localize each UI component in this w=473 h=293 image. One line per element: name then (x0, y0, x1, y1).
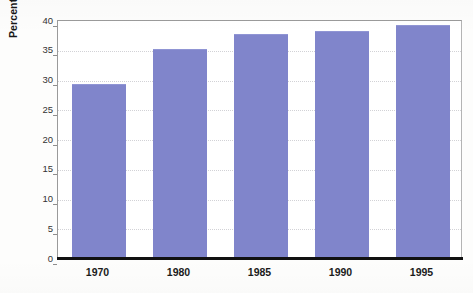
bar[interactable] (396, 25, 450, 258)
y-axis-title: Percentage of unmarried people over 18 (4, 0, 22, 56)
y-axis-tick-label: 20 (28, 134, 53, 145)
y-axis-tick-label: 25 (28, 104, 53, 115)
bar[interactable] (153, 49, 207, 258)
y-axis-tick-label: 40 (28, 15, 53, 26)
bars-layer (58, 21, 461, 258)
y-axis-tick-label: 15 (28, 163, 53, 174)
y-axis-tick-label: 0 (28, 253, 53, 264)
plot-area (57, 20, 462, 258)
x-axis-tick-label: 1995 (381, 265, 462, 279)
bar[interactable] (315, 31, 369, 258)
bar[interactable] (234, 34, 288, 258)
x-axis-tick-labels: 19701980198519901995 (57, 265, 462, 281)
x-axis-tick-label: 1970 (57, 265, 138, 279)
bar[interactable] (72, 84, 126, 258)
x-axis-line (57, 257, 463, 260)
bar-chart-figure: Percentage of unmarried people over 18 0… (0, 0, 473, 293)
y-axis-tick-label: 30 (28, 74, 53, 85)
y-axis-tick-label: 5 (28, 223, 53, 234)
y-axis-tick-label: 35 (28, 44, 53, 55)
y-axis-tick-labels: 0510152025303540 (28, 14, 53, 264)
y-axis-tick-label: 10 (28, 193, 53, 204)
x-axis-tick-label: 1985 (219, 265, 300, 279)
x-axis-tick-label: 1990 (300, 265, 381, 279)
x-axis-tick-label: 1980 (138, 265, 219, 279)
